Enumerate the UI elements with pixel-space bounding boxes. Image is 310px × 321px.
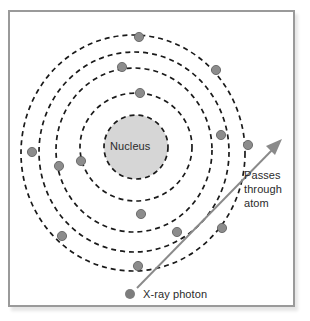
electron: [135, 88, 144, 97]
nucleus-label: Nucleus: [110, 140, 150, 153]
diagram-stage: Nucleus Passes through atom X-ray photon: [0, 0, 310, 321]
electron: [217, 223, 226, 232]
electron: [27, 147, 36, 156]
electron: [133, 261, 142, 270]
electron: [216, 130, 225, 139]
atom-diagram-canvas: [0, 0, 310, 321]
electron: [76, 156, 85, 165]
electron: [57, 231, 66, 240]
electron: [136, 209, 145, 218]
electron: [134, 32, 143, 41]
electron: [211, 65, 220, 74]
passes-through-atom-label: Passes through atom: [244, 168, 282, 210]
xray-photon-label: X-ray photon: [143, 288, 207, 301]
xray-photon-dot: [125, 289, 135, 299]
electron: [54, 161, 63, 170]
electron: [172, 227, 181, 236]
electron: [243, 140, 252, 149]
electron: [117, 62, 126, 71]
